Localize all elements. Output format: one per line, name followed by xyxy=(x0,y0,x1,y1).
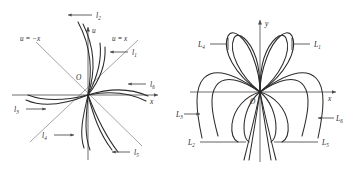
descender-right xyxy=(260,92,276,160)
x-axis-label-right: x xyxy=(327,94,332,103)
curve-label-l3: l3 xyxy=(14,105,19,115)
label-u-eq-neg-x: u = −x xyxy=(20,35,41,43)
origin-label-left: O xyxy=(76,73,82,82)
curve-l2 xyxy=(78,22,93,95)
right-diagram-panel: y x O L4 L1 L3 L6 xyxy=(176,0,352,175)
label-u-eq-x: u = x xyxy=(112,35,128,43)
curve-label-l4: l4 xyxy=(42,131,47,141)
origin-label-right: O xyxy=(250,97,256,106)
curve-label-L2: L2 xyxy=(187,138,195,148)
figure-container: u x O u = −x u = x l2 l1 l6 xyxy=(0,0,352,175)
curve-l4 xyxy=(82,95,90,150)
y-axis-label: y xyxy=(264,19,269,28)
curve-label-L6: L6 xyxy=(335,114,343,124)
u-axis-label: u xyxy=(92,26,96,35)
curve-label-L3: L3 xyxy=(176,110,183,120)
x-axis-label-left: x xyxy=(149,97,154,106)
arch-right xyxy=(260,73,323,138)
curve-label-l6: l6 xyxy=(150,80,155,90)
curve-label-L1: L1 xyxy=(313,40,321,50)
curve-label-l5: l5 xyxy=(134,148,139,158)
curve-label-l2: l2 xyxy=(96,11,101,21)
curve-label-L4: L4 xyxy=(197,40,205,50)
curve-label-L5: L5 xyxy=(321,138,329,148)
left-diagram-panel: u x O u = −x u = x l2 l1 l6 xyxy=(0,0,176,175)
curve-label-l1: l1 xyxy=(132,48,137,58)
curve-l5 xyxy=(88,95,118,152)
